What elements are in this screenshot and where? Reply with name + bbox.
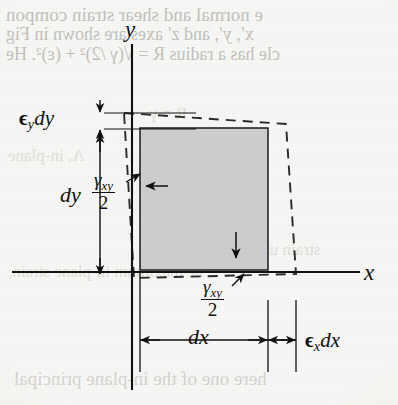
fraction-numerator: γxy (201, 277, 224, 299)
undeformed-element (140, 128, 268, 270)
epsilon-x-dx-label: ϵxdx (305, 330, 340, 353)
gamma-symbol: γ (94, 169, 102, 190)
epsilon-y-dy-label: ϵydy (19, 108, 54, 131)
dy-term: dy (34, 106, 54, 130)
dx-term: dx (320, 328, 340, 352)
y-axis-label: y (125, 18, 135, 41)
epsilon-symbol: ϵ (19, 106, 28, 130)
fraction: γxy 2 (92, 170, 115, 212)
dx-label: dx (188, 326, 209, 348)
dy-label: dy (60, 184, 81, 206)
x-axis-label: x (364, 261, 374, 284)
epsilon-symbol: ϵ (305, 328, 314, 352)
scanned-figure-page: e normal and shear strain compon x′, y′,… (0, 0, 398, 405)
fraction-denominator: 2 (92, 192, 115, 212)
gamma-xy-over-2-label-left: γxy 2 (92, 170, 115, 212)
gamma-xy-over-2-label-bottom: γxy 2 (201, 277, 224, 319)
fraction: γxy 2 (201, 277, 224, 319)
fraction-denominator: 2 (201, 299, 224, 319)
gamma-symbol: γ (203, 276, 211, 297)
fraction-numerator: γxy (92, 170, 115, 192)
gamma-subscript: xy (211, 285, 222, 300)
gamma-subscript: xy (102, 178, 113, 193)
